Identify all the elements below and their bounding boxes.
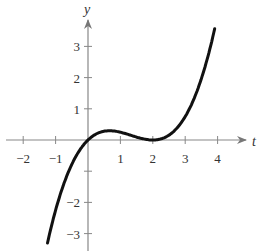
x-tick-label: 1 (117, 151, 124, 166)
x-axis-label: t (252, 134, 257, 149)
function-curve (48, 29, 215, 243)
x-tick-label: 3 (182, 151, 189, 166)
y-tick-label: 2 (74, 71, 81, 86)
x-tick-label: 2 (150, 151, 157, 166)
x-tick-label: 4 (214, 151, 221, 166)
x-tick-label: −2 (16, 151, 30, 166)
y-tick-label: −2 (66, 195, 80, 210)
y-tick-label: 3 (74, 39, 81, 54)
y-tick-label: −3 (66, 227, 80, 242)
chart: −2−11234 321−2−3 t y (0, 0, 267, 251)
x-tick-label: −1 (49, 151, 63, 166)
y-axis-label: y (82, 2, 91, 17)
cubic-graph: −2−11234 321−2−3 t y (0, 0, 267, 251)
y-tick-label: 1 (74, 102, 81, 117)
